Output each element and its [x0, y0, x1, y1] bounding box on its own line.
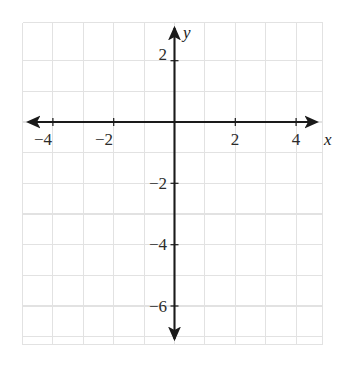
- y-tick-label-neg2: −2: [149, 174, 167, 193]
- x-tick-label-neg4: −4: [34, 130, 53, 149]
- y-tick-label-neg4: −4: [149, 235, 168, 254]
- y-tick-label-pos2: 2: [159, 45, 168, 64]
- x-tick-label-neg2: −2: [95, 130, 113, 149]
- x-tick-label-pos2: 2: [231, 130, 240, 149]
- x-axis-name-label: x: [323, 130, 332, 149]
- coordinate-grid-figure: −4 −2 2 4 2 −2 −4 −6 y x: [0, 0, 346, 366]
- y-tick-label-neg6: −6: [149, 297, 167, 316]
- coordinate-plane-svg: −4 −2 2 4 2 −2 −4 −6 y x: [0, 0, 346, 366]
- x-tick-label-pos4: 4: [292, 130, 301, 149]
- y-axis-name-label: y: [181, 23, 191, 42]
